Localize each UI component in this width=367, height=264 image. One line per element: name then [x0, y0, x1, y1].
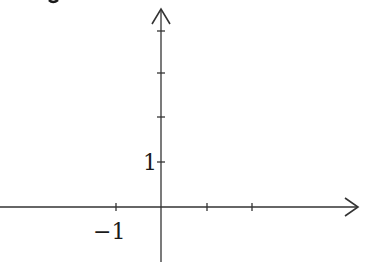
cropped-y-label — [49, 0, 58, 2]
x-tick-label-neg1: −1 — [93, 219, 125, 244]
y-axis — [152, 9, 170, 262]
x-axis — [0, 198, 358, 216]
coordinate-axes-diagram: 1 −1 — [0, 0, 367, 264]
y-tick-label-1: 1 — [143, 150, 157, 175]
